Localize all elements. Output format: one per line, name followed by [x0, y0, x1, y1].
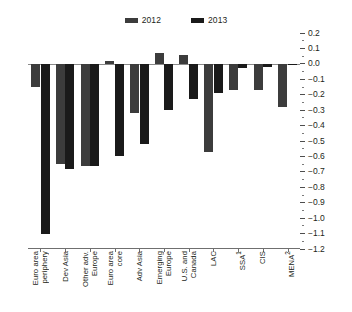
- bar-2013: [288, 64, 297, 66]
- x-axis-labels: Euro areaperipheryDev AsiaOther adv.Euro…: [28, 251, 300, 312]
- bar-2013: [65, 64, 74, 169]
- legend-swatch-2012: [125, 18, 138, 23]
- y-axis-tick-mark: [300, 233, 305, 234]
- y-axis-minor-tick-mark: [302, 117, 304, 118]
- y-axis-minor-tick-mark: [302, 102, 304, 103]
- bar-group: [201, 33, 226, 249]
- bar-chart: 2012 2013 0.20.10.0−0.1−0.2−0.3−0.4−0.5−…: [0, 0, 352, 312]
- bar-2012: [105, 61, 114, 64]
- y-axis-tick-label: −0.1: [308, 74, 325, 83]
- y-axis-tick-label: −0.7: [308, 167, 325, 176]
- y-axis-tick-label: −0.9: [308, 198, 325, 207]
- x-axis-label: CIS: [258, 251, 267, 312]
- y-axis-tick-mark: [300, 63, 305, 64]
- bar-2013: [90, 64, 99, 166]
- y-axis-tick-label: −1.2: [308, 244, 325, 253]
- bar-2012: [56, 64, 65, 164]
- bar-2012: [31, 64, 40, 87]
- footnote-marker: 2: [284, 251, 291, 255]
- bar-2013: [189, 64, 198, 99]
- x-axis-label: SSA1: [234, 251, 247, 312]
- bar-group: [28, 33, 53, 249]
- x-axis-label: U.S. andCanada: [180, 251, 198, 312]
- bar-2012: [254, 64, 263, 90]
- bar-group: [176, 33, 201, 249]
- y-axis-tick-label: −1.1: [308, 229, 325, 238]
- y-axis-tick-mark: [300, 94, 305, 95]
- bar-2012: [229, 64, 238, 90]
- chart-legend: 2012 2013: [0, 16, 352, 25]
- y-axis-tick-label: −1.0: [308, 213, 325, 222]
- plot-area: [28, 33, 300, 249]
- x-axis-label-line: Other adv.: [81, 251, 90, 287]
- bar-2012: [204, 64, 213, 152]
- x-axis-label: Dev Asia: [61, 251, 70, 312]
- y-axis-tick-mark: [300, 79, 305, 80]
- x-axis-label-line: Adv Asia: [135, 251, 144, 281]
- y-axis-minor-tick-mark: [302, 71, 304, 72]
- y-axis-tick-label: −0.5: [308, 136, 325, 145]
- y-axis-tick-mark: [300, 218, 305, 219]
- y-axis-tick-mark: [300, 141, 305, 142]
- bar-group: [77, 33, 102, 249]
- x-axis-label-line: LAC: [209, 251, 218, 266]
- x-axis-label: Euro areaperiphery: [31, 251, 49, 312]
- y-axis-minor-tick-mark: [302, 195, 304, 196]
- y-axis-tick-label: 0.1: [308, 43, 320, 52]
- bar-2013: [164, 64, 173, 110]
- x-axis-label: Adv Asia: [135, 251, 144, 312]
- y-axis-minor-tick-mark: [302, 87, 304, 88]
- bar-2012: [278, 64, 287, 107]
- y-axis-tick-label: −0.8: [308, 182, 325, 191]
- x-axis-label-line: core: [115, 251, 124, 266]
- y-axis-tick-label: −0.2: [308, 90, 325, 99]
- x-axis-label: Euro areacore: [106, 251, 124, 312]
- y-axis-tick-mark: [300, 33, 305, 34]
- bar-2012: [81, 64, 90, 166]
- y-axis-minor-tick-mark: [302, 164, 304, 165]
- x-axis-label-line: Dev Asia: [61, 251, 70, 282]
- bar-2013: [41, 64, 50, 234]
- bar-group: [127, 33, 152, 249]
- bar-2013: [238, 64, 247, 69]
- x-axis-label-line: Canada: [189, 251, 198, 278]
- x-axis-label: Other adv.Europe: [81, 251, 99, 312]
- bar-2013: [214, 64, 223, 93]
- y-axis-minor-tick-mark: [302, 148, 304, 149]
- x-axis-label-line: Euro area: [106, 251, 115, 285]
- y-axis-tick-mark: [300, 110, 305, 111]
- x-axis-label-line: Emerging: [155, 251, 164, 284]
- x-axis-label-line: Euro area: [31, 251, 40, 285]
- bar-group: [226, 33, 251, 249]
- bar-group: [102, 33, 127, 249]
- x-axis-label-line: CIS: [258, 251, 267, 264]
- y-axis-tick-mark: [300, 171, 305, 172]
- y-axis-minor-tick-mark: [302, 241, 304, 242]
- x-axis-label: EmergingEurope: [155, 251, 173, 312]
- y-axis-tick-mark: [300, 202, 305, 203]
- x-axis-label: MENA2: [283, 251, 296, 312]
- bar-2012: [130, 64, 139, 113]
- x-axis-label-line: Europe: [90, 251, 99, 276]
- footnote-marker: 1: [235, 251, 242, 255]
- bar-group: [251, 33, 276, 249]
- x-axis-label: LAC: [209, 251, 218, 312]
- y-axis-tick-mark: [300, 187, 305, 188]
- bar-2012: [155, 53, 164, 64]
- legend-label-2012: 2012: [142, 16, 161, 25]
- x-axis-label-line: Europe: [164, 251, 173, 276]
- legend-swatch-2013: [191, 18, 204, 23]
- y-axis-tick-label: 0.0: [308, 59, 320, 68]
- y-axis-tick-label: −0.6: [308, 151, 325, 160]
- y-axis-tick-label: 0.2: [308, 28, 320, 37]
- y-axis-minor-tick-mark: [302, 210, 304, 211]
- y-axis-minor-tick-mark: [302, 56, 304, 57]
- legend-entry-2013: 2013: [191, 16, 227, 25]
- bar-group: [53, 33, 78, 249]
- bar-2013: [263, 64, 272, 67]
- y-axis-minor-tick-mark: [302, 225, 304, 226]
- y-axis-tick-mark: [300, 249, 305, 250]
- bar-group: [152, 33, 177, 249]
- legend-entry-2012: 2012: [125, 16, 161, 25]
- legend-label-2013: 2013: [208, 16, 227, 25]
